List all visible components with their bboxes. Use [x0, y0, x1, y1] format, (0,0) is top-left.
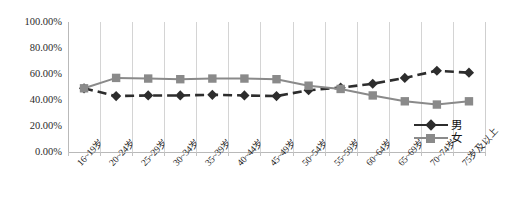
x-axis-tick	[389, 152, 390, 156]
x-axis-tick	[100, 152, 101, 156]
legend-label-female: 女	[451, 132, 462, 144]
data-point-marker	[239, 90, 249, 100]
data-point-marker	[240, 74, 248, 82]
data-point-marker	[304, 82, 312, 90]
data-point-marker	[176, 75, 184, 83]
legend-marker-female-icon	[414, 132, 448, 144]
y-axis-tick-label: 100.00%	[0, 17, 62, 27]
x-axis-tick	[453, 152, 454, 156]
y-axis-tick-label: 20.00%	[0, 121, 62, 131]
y-axis-tick-label: 80.00%	[0, 43, 62, 53]
data-point-marker	[272, 75, 280, 83]
data-point-marker	[465, 97, 473, 105]
data-point-marker	[336, 85, 344, 93]
data-point-marker	[401, 97, 409, 105]
x-axis-tick	[132, 152, 133, 156]
y-axis-tick-label: 60.00%	[0, 69, 62, 79]
data-point-marker	[112, 74, 120, 82]
x-axis-tick	[357, 152, 358, 156]
x-axis-tick	[485, 152, 486, 156]
chart-container: 100.00%80.00%60.00%40.00%20.00%0.00% 16~…	[0, 0, 510, 222]
data-point-marker	[80, 84, 88, 92]
data-point-marker	[175, 90, 185, 100]
x-axis-tick	[421, 152, 422, 156]
data-point-marker	[144, 74, 152, 82]
data-point-marker	[143, 90, 153, 100]
data-point-marker	[207, 90, 217, 100]
data-point-marker	[433, 100, 441, 108]
legend-label-male: 男	[451, 119, 462, 131]
y-axis-tick-label: 40.00%	[0, 95, 62, 105]
x-axis-tick	[260, 152, 261, 156]
data-point-marker	[464, 68, 474, 78]
data-point-marker	[271, 91, 281, 101]
x-axis-tick	[228, 152, 229, 156]
data-point-marker	[111, 91, 121, 101]
chart-legend: 男 女	[414, 118, 488, 144]
x-axis-tick	[68, 152, 69, 156]
x-axis-tick	[325, 152, 326, 156]
x-axis-tick	[196, 152, 197, 156]
y-axis-tick-label: 0.00%	[0, 147, 62, 157]
legend-marker-male-icon	[414, 119, 448, 131]
data-point-marker	[208, 74, 216, 82]
data-point-marker	[368, 79, 378, 89]
data-point-marker	[369, 91, 377, 99]
x-axis-tick	[293, 152, 294, 156]
data-point-marker	[432, 66, 442, 76]
legend-item-female[interactable]: 女	[414, 131, 488, 144]
legend-item-male[interactable]: 男	[414, 118, 488, 131]
data-point-marker	[400, 73, 410, 83]
x-axis-tick	[164, 152, 165, 156]
